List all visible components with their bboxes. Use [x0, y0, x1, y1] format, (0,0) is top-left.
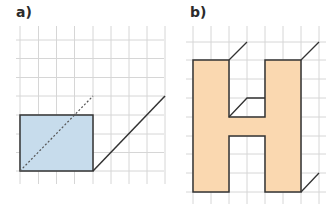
diagram-canvas [0, 0, 327, 213]
panel-a-rectangle [20, 115, 93, 171]
